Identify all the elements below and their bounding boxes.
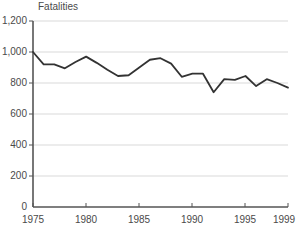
ytick-label-600: 600 [0, 109, 27, 119]
chart-figure: Fatalities 1,200 1,000 [0, 0, 303, 236]
xtick-label-1980: 1980 [66, 215, 106, 225]
xtick-label-1985: 1985 [119, 215, 159, 225]
data-series-line [33, 52, 288, 92]
xtick-label-1975: 1975 [13, 215, 53, 225]
xtick-label-1995: 1995 [225, 215, 265, 225]
gridlines [33, 21, 288, 176]
ytick-label-400: 400 [0, 140, 27, 150]
ytick-label-1000: 1,000 [0, 47, 27, 57]
xtick-label-1999: 1999 [266, 215, 302, 225]
ytick-label-1200: 1,200 [0, 16, 27, 26]
ytick-label-200: 200 [0, 171, 27, 181]
ytick-label-0: 0 [0, 202, 27, 212]
line-chart-plot [0, 0, 303, 236]
ytick-label-800: 800 [0, 78, 27, 88]
xtick-label-1990: 1990 [172, 215, 212, 225]
